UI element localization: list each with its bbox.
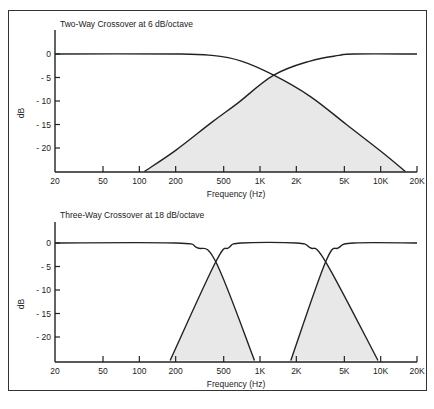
x-tick-label: 100 [132,176,146,186]
x-tick-label: 10K [373,366,388,376]
chart-2: 0- 5- 10- 15- 2020501002005001K2K5K10K20… [16,210,425,389]
x-axis-label: Frequency (Hz) [207,379,266,389]
overlap-shade [144,75,405,171]
overlap-shade [170,262,254,361]
chart-title: Three-Way Crossover at 18 dB/octave [60,210,205,220]
x-tick-label: 2K [291,176,302,186]
y-tick-label: 0 [46,49,51,59]
x-tick-label: 500 [217,176,231,186]
y-tick-label: - 20 [36,143,51,153]
y-axis-label: dB [16,298,26,309]
y-tick-label: - 15 [36,120,51,130]
x-tick-label: 1K [255,176,266,186]
x-tick-label: 20K [409,366,424,376]
chart-title: Two-Way Crossover at 6 dB/octave [60,19,193,29]
y-tick-label: 0 [46,238,51,248]
x-tick-label: 20 [50,366,60,376]
chart-1: 0- 5- 10- 15- 2020501002005001K2K5K10K20… [16,19,425,199]
y-tick-label: - 15 [36,309,51,319]
x-tick-label: 100 [132,366,146,376]
x-tick-label: 2K [291,366,302,376]
x-tick-label: 1K [255,366,266,376]
x-tick-label: 5K [339,176,350,186]
x-tick-label: 200 [169,366,183,376]
y-tick-label: - 10 [36,96,51,106]
x-tick-label: 50 [98,176,108,186]
y-axis-label: dB [16,107,26,118]
x-tick-label: 500 [217,366,231,376]
y-tick-label: - 20 [36,332,51,342]
x-tick-label: 20 [50,176,60,186]
x-tick-label: 5K [339,366,350,376]
y-tick-label: - 5 [41,73,51,83]
x-tick-label: 10K [373,176,388,186]
y-tick-label: - 5 [41,262,51,272]
crossover-charts: 0- 5- 10- 15- 2020501002005001K2K5K10K20… [0,0,434,409]
x-tick-label: 20K [409,176,424,186]
x-tick-label: 200 [169,176,183,186]
y-tick-label: - 10 [36,285,51,295]
x-tick-label: 50 [98,366,108,376]
x-axis-label: Frequency (Hz) [207,189,266,199]
